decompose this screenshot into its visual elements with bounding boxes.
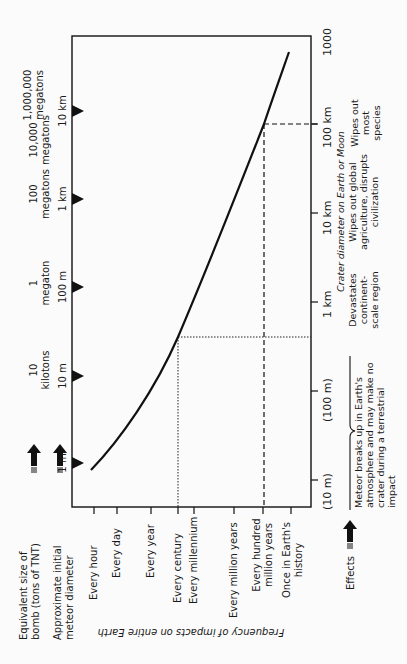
meteor-diameter-label: 100 m [57, 269, 69, 305]
triangle-marker-icon [72, 370, 84, 382]
frequency-label: Every hour [88, 545, 100, 600]
crater-axis-label: Crater diameter on Earth or Moon [336, 131, 347, 292]
effect-text-global-agriculture: Wipes out global agriculture, disrupts c… [348, 154, 381, 250]
meteor-diameter-label: 10 m [57, 361, 69, 391]
frequency-label: Every million years [228, 522, 240, 618]
triangle-marker-icon [72, 105, 84, 117]
meteor-diameter-label: 1 m [57, 448, 69, 478]
chart-frame [72, 36, 311, 507]
century-reference-lines [178, 337, 311, 507]
frequency-label: Every hundred million years [251, 512, 274, 598]
effects-arrow-icon [343, 520, 357, 548]
meteor-diameter-label: 1 km [57, 184, 69, 214]
frequency-label: Every century [172, 533, 184, 603]
effect-text-small-meteor: Meteor breaks up in Earth's atmosphere a… [354, 358, 398, 508]
meteor-diameter-markers [72, 105, 84, 469]
bomb-size-row-label: Equivalent size of bomb (tons of TNT) [18, 520, 41, 640]
meteor-diameter-row-label: Approximate initial meteor diameter [52, 520, 75, 640]
impact-curve [91, 52, 289, 470]
triangle-marker-icon [72, 193, 84, 205]
crater-tick-label: (100 m) [322, 378, 335, 422]
frequency-axis-label: Frequency of impacts on entire Earth [85, 627, 297, 638]
triangle-marker-icon [72, 457, 84, 469]
crater-tick-label: 1000 [322, 28, 335, 56]
frequency-label: Every millennium [188, 517, 200, 604]
book-page: 10kilotons 1megaton 100megatons 10,000me… [0, 0, 407, 664]
effect-text-species: Wipes out most species [350, 96, 383, 150]
frequency-label: Once in Earth's history [281, 520, 304, 600]
bomb-size-label: 1megaton [28, 258, 51, 308]
bomb-size-label: 10kilotons [28, 345, 51, 395]
crater-tick-label: 100 km [322, 106, 335, 148]
frequency-label: Every day [111, 528, 123, 578]
frequency-label: Every year [145, 524, 157, 578]
effects-row-label: Effects [345, 556, 357, 590]
crater-tick-label: 1 km [322, 290, 335, 318]
crater-tick-label: (10 m) [322, 473, 335, 510]
triangle-marker-icon [72, 281, 84, 293]
bomb-size-label: 1,000,000megatons [22, 60, 45, 130]
effect-text-continental: Devastates continent-scale region [348, 270, 381, 330]
crater-tick-label: 10 km [322, 200, 335, 235]
bomb-size-arrow-icon [27, 444, 41, 472]
meteor-diameter-label: 10 km [57, 94, 69, 128]
crater-axis-ticks [311, 124, 318, 480]
bomb-size-label: 100megatons [28, 166, 51, 222]
